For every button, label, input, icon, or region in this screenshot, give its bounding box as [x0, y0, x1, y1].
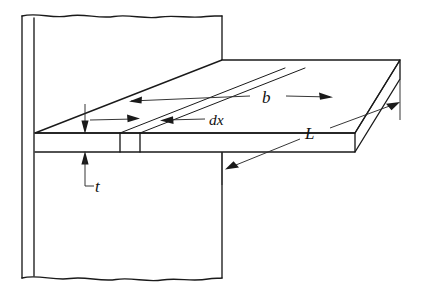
dim-b-label: b	[262, 88, 271, 107]
dim-dx-label: dx	[209, 111, 224, 128]
dim-L-arrowhead-near	[225, 161, 239, 169]
cantilever-beam-figure: b dx t	[0, 0, 426, 291]
dim-L-label: L	[304, 124, 314, 143]
dim-L-arrowhead-far	[386, 102, 400, 110]
engineering-diagram: b dx t	[0, 0, 426, 291]
